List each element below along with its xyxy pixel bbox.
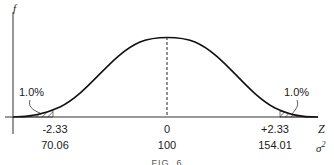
left-variance-label: 70.06	[41, 139, 69, 151]
y-axis-label: f	[13, 2, 16, 14]
figure-caption: FIG. 6	[151, 157, 182, 165]
left-percent-leader	[29, 100, 40, 113]
right-variance-label: 154.01	[258, 139, 292, 151]
variance-axis-label: σ2	[316, 139, 325, 154]
bell-curve	[13, 38, 318, 118]
left-z-label: -2.33	[42, 123, 67, 135]
right-percent-leader	[292, 100, 298, 114]
right-z-label: +2.33	[261, 123, 289, 135]
variance-exponent: 2	[321, 140, 325, 149]
right-tail-percent: 1.0%	[284, 86, 309, 98]
z-axis-label: Z	[318, 123, 325, 135]
left-tail-percent: 1.0%	[19, 86, 44, 98]
center-variance-label: 100	[158, 139, 176, 151]
center-z-label: 0	[164, 123, 170, 135]
